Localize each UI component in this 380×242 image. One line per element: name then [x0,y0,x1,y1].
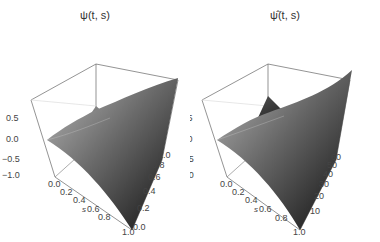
svg-text:−1.0: −1.0 [2,170,20,180]
svg-text:1.0: 1.0 [293,227,306,237]
surface-plot-psi-hat: ψ̂(t, s) 0.5 [190,0,380,242]
svg-text:20: 20 [314,191,324,201]
svg-text:0.0: 0.0 [133,222,146,232]
svg-text:0.5: 0.5 [6,113,19,123]
svg-text:0.0: 0.0 [220,179,233,189]
svg-text:10: 10 [310,206,320,216]
svg-text:0.0: 0.0 [48,179,61,189]
svg-text:0.8: 0.8 [98,212,111,222]
svg-text:−1.0: −1.0 [190,170,194,180]
surface [217,70,352,230]
surface-plot-canvas: 0.5 0.0 −0.5 −1.0 0.0 0.2 0.4 0.6 0.8 1.… [0,0,190,242]
svg-text:s: s [254,205,258,214]
svg-text:0.4: 0.4 [245,195,258,205]
svg-text:0.2: 0.2 [60,187,73,197]
surface-plot-psi: ψ(t, s) [0,0,190,242]
svg-text:0.2: 0.2 [232,187,245,197]
svg-text:40: 40 [323,169,333,179]
svg-text:0.4: 0.4 [73,195,86,205]
svg-text:−0.5: −0.5 [190,154,194,164]
svg-text:0.5: 0.5 [190,113,193,123]
svg-text:0.6: 0.6 [148,172,161,182]
surface-plot-canvas: 0.5 0.0 −0.5 −1.0 0.0 0.2 0.4 0.6 0.8 1.… [190,0,380,242]
svg-text:0.0: 0.0 [190,134,193,144]
svg-text:0.6: 0.6 [259,204,272,214]
svg-text:s: s [82,205,86,214]
z-axis-ticks: 0.5 0.0 −0.5 −1.0 [2,113,20,180]
svg-text:0.0: 0.0 [6,134,19,144]
z-axis-ticks: 0.5 0.0 −0.5 −1.0 [190,113,194,180]
svg-text:30: 30 [319,179,329,189]
svg-text:1.0: 1.0 [158,150,171,160]
svg-text:−0.5: −0.5 [2,154,20,164]
svg-text:0.8: 0.8 [152,160,165,170]
svg-text:0.4: 0.4 [143,186,156,196]
svg-text:0.8: 0.8 [275,213,288,223]
svg-text:60: 60 [331,152,341,162]
svg-text:0.2: 0.2 [137,203,150,213]
